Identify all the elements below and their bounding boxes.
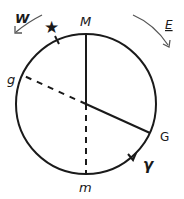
celestial-sphere-diagram: W E ★ M m g G γ bbox=[0, 0, 184, 199]
g-large-label: G bbox=[160, 130, 169, 144]
west-label: W bbox=[15, 11, 30, 26]
east-arrow-icon bbox=[133, 15, 168, 45]
meridian-bottom-label: m bbox=[79, 180, 92, 195]
east-label: E bbox=[165, 18, 173, 32]
radius-to-g-dashed-line bbox=[22, 75, 86, 104]
gamma-label: γ bbox=[143, 156, 155, 174]
star-label: ★ bbox=[44, 17, 59, 37]
radius-to-G-line bbox=[86, 104, 150, 133]
meridian-top-label: M bbox=[80, 14, 91, 29]
g-small-label: g bbox=[7, 72, 15, 87]
